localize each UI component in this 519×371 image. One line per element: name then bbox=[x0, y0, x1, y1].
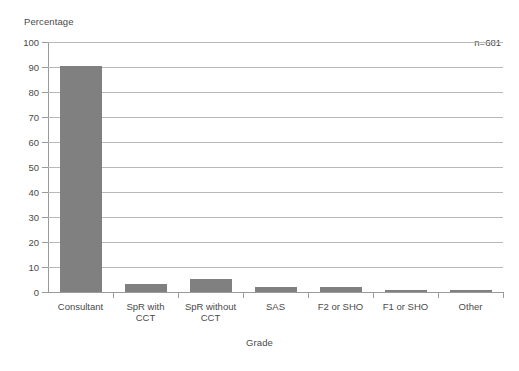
bar bbox=[125, 284, 167, 292]
x-axis-tick bbox=[243, 292, 244, 298]
x-axis-category-label: SpR with CCT bbox=[113, 301, 178, 323]
bar-slot bbox=[113, 42, 178, 292]
bars-layer bbox=[48, 42, 503, 292]
bar-slot bbox=[243, 42, 308, 292]
y-axis-tick-label: 50 bbox=[28, 162, 39, 173]
bar-slot bbox=[373, 42, 438, 292]
y-axis-tick-label: 70 bbox=[28, 112, 39, 123]
y-axis-tick-label: 100 bbox=[23, 37, 39, 48]
x-axis-tick bbox=[438, 292, 439, 298]
bar-slot bbox=[438, 42, 503, 292]
y-axis-title: Percentage bbox=[24, 16, 74, 27]
x-axis-tick bbox=[308, 292, 309, 298]
x-axis-title: Grade bbox=[0, 337, 519, 348]
bar bbox=[190, 279, 232, 292]
x-axis-tick bbox=[503, 292, 504, 298]
y-axis-tick-label: 20 bbox=[28, 237, 39, 248]
x-axis-category-label: F1 or SHO bbox=[373, 301, 438, 312]
x-axis-category-label: SAS bbox=[243, 301, 308, 312]
bar bbox=[450, 290, 492, 293]
y-axis-tick-label: 40 bbox=[28, 187, 39, 198]
bar-slot bbox=[308, 42, 373, 292]
y-axis-tick-label: 10 bbox=[28, 262, 39, 273]
bar bbox=[385, 290, 427, 293]
y-axis-tick-label: 90 bbox=[28, 62, 39, 73]
y-axis-tick bbox=[42, 292, 48, 293]
y-axis-tick-label: 0 bbox=[34, 287, 39, 298]
x-axis-tick bbox=[178, 292, 179, 298]
x-axis-tick bbox=[113, 292, 114, 298]
y-axis-tick-label: 80 bbox=[28, 87, 39, 98]
x-axis-tick bbox=[373, 292, 374, 298]
bar-slot bbox=[178, 42, 243, 292]
bar bbox=[320, 287, 362, 292]
bar bbox=[255, 287, 297, 292]
x-axis-line bbox=[48, 292, 503, 293]
y-axis-tick-label: 30 bbox=[28, 212, 39, 223]
bar-slot bbox=[48, 42, 113, 292]
x-axis-category-label: F2 or SHO bbox=[308, 301, 373, 312]
x-axis-category-label: SpR without CCT bbox=[178, 301, 243, 323]
y-axis-tick-label: 60 bbox=[28, 137, 39, 148]
x-axis-category-label: Consultant bbox=[48, 301, 113, 312]
x-axis-category-label: Other bbox=[438, 301, 503, 312]
bar-chart: Percentage n=681 0102030405060708090100 … bbox=[0, 0, 519, 371]
bar bbox=[60, 66, 102, 292]
plot-area: 0102030405060708090100 ConsultantSpR wit… bbox=[48, 42, 503, 292]
